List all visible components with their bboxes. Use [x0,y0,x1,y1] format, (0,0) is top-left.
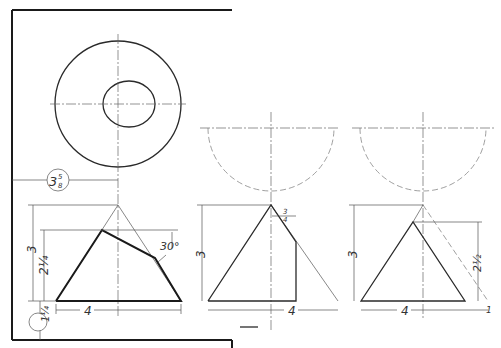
dim-label: 1¼ [40,306,51,322]
dim-label: 4 [401,304,409,318]
dim-label: 2¼ [37,255,51,275]
dim-label: 8 [58,182,63,190]
dim-label: 3 [346,250,360,258]
left-offset-dimension: 3 5 8 [12,169,118,191]
dim-label: 3 [194,250,208,258]
technical-drawing: 3 5 8 3 2¼ 30° 4 1¼ [0,0,501,348]
angle-label: 30° [160,240,180,253]
right-view: 3 2½ 4 1 [346,112,495,318]
dim-label: 4 [288,304,296,318]
dim-label: 3 [283,208,287,216]
dim-label: 3 [25,245,39,253]
dim-label: 2½ [471,254,484,272]
dim-label: 5 [58,173,63,181]
dim-label: 3 [49,174,57,189]
middle-view: 3 3 4 4 [194,112,340,330]
dim-label: 1 [486,305,492,315]
left-front-view: 3 2¼ 30° 4 1¼ [25,205,181,340]
dim-label: 4 [283,216,287,224]
dim-label: 4 [84,304,92,318]
